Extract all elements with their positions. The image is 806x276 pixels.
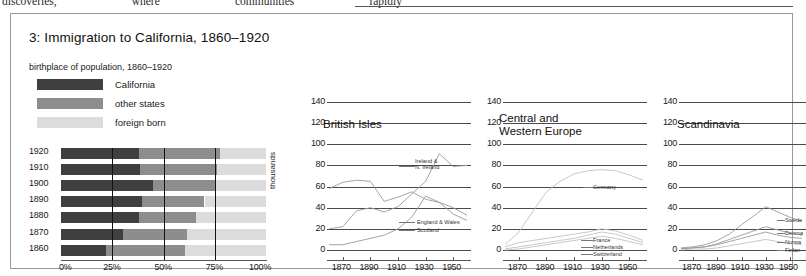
- x-tick-label: 1890: [535, 262, 554, 272]
- x-tick-label: 1910: [731, 262, 750, 272]
- series-lines: [647, 102, 806, 270]
- bar-segment-california: [61, 212, 139, 223]
- series-lines: [295, 102, 471, 270]
- leader-line: [777, 233, 785, 234]
- x-tick-label: 1870: [332, 262, 351, 272]
- leader-line: [581, 240, 593, 241]
- series-scotland: [329, 180, 467, 215]
- legend-label: California: [115, 79, 155, 90]
- x-tick-label: 1950: [618, 262, 637, 272]
- series-norway: [681, 232, 802, 249]
- x-tick: [343, 257, 344, 260]
- bar-x-tick-label: 25%: [103, 262, 120, 272]
- leader-line: [777, 242, 785, 243]
- series-annotation: Germany: [593, 184, 616, 190]
- legend-label: other states: [115, 98, 165, 109]
- x-tick: [717, 257, 718, 260]
- bar-year-label: 1920: [29, 146, 55, 156]
- x-tick: [546, 257, 547, 260]
- legend-swatch: [37, 117, 103, 128]
- bar-segment-other-states: [139, 148, 220, 159]
- series-annotation: France: [593, 237, 610, 243]
- legend-label: foreign born: [115, 117, 166, 128]
- legend-item-california: California: [37, 76, 197, 93]
- bar-segment-foreign-born: [205, 196, 267, 207]
- bar-segment-california: [61, 164, 140, 175]
- page-running-text: discoveries, where communities rapidly: [0, 0, 795, 14]
- legend-swatch: [37, 98, 103, 109]
- line-chart-british-isles: 020406080100120140British Isles187018901…: [295, 102, 471, 272]
- series-annotation: Ireland &N. Ireland: [415, 158, 439, 171]
- x-tick-label: 1950: [442, 262, 461, 272]
- leader-line: [399, 222, 415, 223]
- running-word: communities: [235, 0, 294, 7]
- bar-year-label: 1910: [29, 162, 55, 172]
- bar-segment-foreign-born: [187, 229, 266, 240]
- legend: California other states foreign born: [37, 76, 197, 133]
- line-chart-scandinavia: 020406080100120140Scandinavia18701890191…: [647, 102, 806, 272]
- x-axis: [503, 260, 647, 261]
- bar-segment-foreign-born: [185, 245, 266, 256]
- bar-segment-foreign-born: [217, 164, 266, 175]
- series-england-wales: [329, 154, 467, 229]
- x-tick: [370, 257, 371, 260]
- figure-subtitle: birthplace of population, 1860–1920: [29, 62, 172, 72]
- bar-segment-other-states: [123, 229, 188, 240]
- x-tick-label: 1890: [359, 262, 378, 272]
- bar-year-label: 1860: [29, 243, 55, 253]
- bar-segment-california: [61, 245, 106, 256]
- series-annotation: Swede: [785, 217, 802, 223]
- x-axis: [327, 260, 471, 261]
- x-tick: [693, 257, 694, 260]
- x-tick-label: 1870: [508, 262, 527, 272]
- leader-line: [583, 187, 593, 188]
- bar-segment-other-states: [106, 245, 185, 256]
- bar-x-axis: [61, 260, 267, 261]
- x-tick: [453, 257, 454, 260]
- bar-segment-california: [61, 180, 153, 191]
- x-tick-label: 1930: [755, 262, 774, 272]
- bar-x-tick-label: 50%: [155, 262, 172, 272]
- bar-x-tick-label: 0%: [59, 262, 72, 272]
- x-tick-label: 1890: [706, 262, 725, 272]
- series-annotation: England & Wales: [417, 219, 460, 225]
- line-chart-central-western-europe: 020406080100120140Central andWestern Eur…: [471, 102, 647, 272]
- bar-year-label: 1870: [29, 227, 55, 237]
- bar-segment-foreign-born: [220, 148, 266, 159]
- bar-x-tick-label: 75%: [206, 262, 223, 272]
- legend-item-other-states: other states: [37, 95, 197, 112]
- x-tick: [519, 257, 520, 260]
- bar-segment-california: [61, 196, 142, 207]
- table-row: 1890: [29, 196, 279, 207]
- x-tick-label: 1930: [591, 262, 610, 272]
- leader-line: [399, 230, 415, 231]
- bar-segment-other-states: [139, 212, 196, 223]
- bar-segment-foreign-born: [196, 212, 266, 223]
- leader-line: [581, 254, 593, 255]
- series-annotation: Norwa: [785, 239, 801, 245]
- table-row: 1870: [29, 229, 279, 240]
- bar-segment-other-states: [140, 164, 217, 175]
- stacked-bar-chart: 19201910190018901880187018600%25%50%75%1…: [29, 148, 279, 272]
- figure-title: 3: Immigration to California, 1860–1920: [29, 30, 269, 45]
- x-tick-label: 1870: [682, 262, 701, 272]
- x-tick: [398, 257, 399, 260]
- bar-x-tick-label: 100%: [249, 262, 271, 272]
- figure-container: 3: Immigration to California, 1860–1920 …: [10, 13, 793, 269]
- series-finland: [681, 239, 802, 250]
- table-row: 1900: [29, 180, 279, 191]
- x-tick: [742, 257, 743, 260]
- gridline: [112, 148, 113, 260]
- x-tick: [602, 257, 603, 260]
- bar-year-label: 1880: [29, 210, 55, 220]
- bar-segment-foreign-born: [216, 180, 266, 191]
- series-annotation: Switzerland: [593, 251, 622, 257]
- bar-year-label: 1900: [29, 178, 55, 188]
- table-row: 1920: [29, 148, 279, 159]
- x-tick: [790, 257, 791, 260]
- gridline: [215, 148, 216, 260]
- leader-line: [777, 250, 785, 251]
- table-row: 1880: [29, 212, 279, 223]
- bar-segment-california: [61, 229, 123, 240]
- x-tick: [766, 257, 767, 260]
